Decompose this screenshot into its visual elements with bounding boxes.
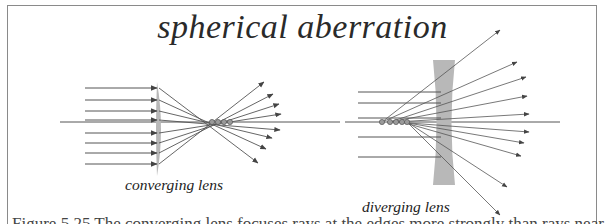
focal-point	[227, 119, 232, 124]
figure-caption: Figure 5.25 The converging lens focuses …	[12, 214, 605, 224]
spherical-aberration-figure: spherical aberration converging lens div…	[0, 0, 605, 224]
converging-lens-diagram	[60, 82, 340, 176]
virtual-focal-point	[404, 119, 409, 124]
focal-point	[209, 119, 214, 124]
virtual-focal-point	[387, 119, 392, 124]
virtual-focal-point	[399, 119, 404, 124]
virtual-focal-point	[379, 119, 384, 124]
converging-lens-label: converging lens	[125, 176, 223, 194]
converging-lens-shape	[156, 82, 161, 176]
diverging-lens-diagram	[345, 30, 560, 215]
optics-diagram	[0, 0, 605, 224]
focal-point	[221, 119, 226, 124]
focal-point	[215, 119, 220, 124]
diverged-ray	[402, 122, 524, 143]
virtual-focal-point	[393, 119, 398, 124]
